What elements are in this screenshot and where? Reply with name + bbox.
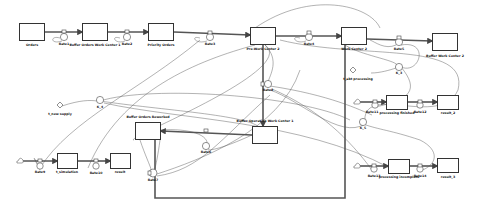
label-buffer-work-center-2: Buffer Work Center 2: [426, 55, 464, 58]
label-rate9: Rate9: [35, 171, 46, 174]
stock-pre-work-center-2[interactable]: [250, 27, 276, 45]
label-t-abt-processing: t_abt processing: [343, 78, 373, 81]
label-rate14: Rate14: [414, 175, 427, 178]
label-rate5: Rate5: [394, 48, 405, 51]
label-work-center-2: Work Center 2: [341, 48, 367, 51]
stock-priority-orders[interactable]: [148, 23, 174, 41]
stock-orders[interactable]: [19, 23, 45, 41]
label-result-2: result_2: [441, 112, 455, 115]
cloud-icon: [354, 163, 361, 168]
stock-buffer-operation-work-center-1[interactable]: [252, 126, 278, 144]
label-rate10: Rate10: [90, 172, 103, 175]
label-result: result: [115, 171, 126, 174]
label-rate6: Rate6: [201, 151, 212, 154]
label-t-simulation: t_simulation: [56, 171, 78, 174]
label-rate7: Rate7: [148, 179, 159, 182]
stock-result-3[interactable]: [437, 158, 459, 173]
rate-valves: [37, 30, 423, 177]
label-rate11: Rate11: [366, 111, 379, 114]
label-buffer-orders-work-center-1: Buffer Orders Work Center 1: [69, 44, 120, 47]
label-processing-finished: processing finished: [380, 112, 415, 115]
label-orders: Orders: [26, 44, 38, 47]
stock-buffer-work-center-2[interactable]: [432, 33, 458, 51]
label-rate2: Rate2: [122, 43, 133, 46]
label-t-new-supply: t_new supply: [48, 113, 72, 116]
label-buffer-operation-work-center-1: Buffer Operation Work Center 1: [237, 120, 294, 123]
label-result-3: result_3: [441, 176, 455, 179]
label-priority-orders: Priority Orders: [148, 44, 175, 47]
stock-work-center-2[interactable]: [341, 27, 367, 45]
label-k4: K_4: [97, 106, 103, 109]
stock-t-simulation[interactable]: [57, 153, 78, 169]
stock-flow-diagram: Orders Buffer Orders Work Center 1 Prior…: [0, 0, 480, 201]
label-rate13: Rate13: [368, 175, 381, 178]
label-rate3: Rate3: [205, 43, 216, 46]
label-rate1: Rate1: [59, 43, 70, 46]
stock-buffer-orders-work-center-1[interactable]: [82, 23, 108, 41]
label-rate8: Rate8: [263, 89, 274, 92]
stock-buffer-orders-reworked[interactable]: [135, 122, 161, 140]
stock-processing-incomplete[interactable]: [388, 159, 410, 174]
stock-result[interactable]: [110, 153, 131, 169]
cloud-icon: [354, 99, 361, 104]
label-buffer-orders-reworked: Buffer Orders Reworked: [126, 116, 169, 119]
label-pre-work-center-2: Pre-Work Center 2: [247, 48, 280, 51]
label-rate4: Rate4: [304, 43, 315, 46]
label-k5: K_5: [360, 127, 366, 130]
cloud-icon: [17, 158, 24, 163]
stock-processing-finished[interactable]: [386, 95, 408, 110]
stock-result-2[interactable]: [437, 95, 459, 110]
label-rate12: Rate12: [414, 111, 427, 114]
label-k3: K_3: [396, 72, 402, 75]
